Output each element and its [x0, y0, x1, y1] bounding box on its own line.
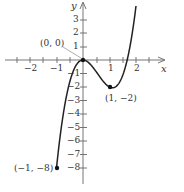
x-tick-label: 1 — [108, 64, 114, 73]
point-start — [55, 166, 59, 170]
y-tick-label: −5 — [67, 123, 80, 132]
x-axis-label: x — [161, 64, 167, 74]
annotation-local-min: (1, −2) — [105, 94, 137, 103]
y-tick-label: −2 — [67, 82, 80, 91]
y-tick-label: −6 — [67, 136, 80, 145]
x-tick-label: 2 — [134, 64, 140, 73]
y-axis-label: y — [71, 1, 77, 11]
annotation-origin: (0, 0) — [40, 39, 64, 48]
x-tick-label: −2 — [24, 64, 37, 73]
x-tick-label: −1 — [50, 64, 63, 73]
y-tick-label: −4 — [67, 109, 80, 118]
point-origin — [81, 58, 85, 62]
y-tick-label: −8 — [67, 163, 80, 172]
point-local-min — [108, 85, 112, 89]
y-ticks — [80, 20, 87, 168]
y-tick-label: 1 — [73, 42, 79, 51]
y-tick-label: −1 — [67, 69, 80, 78]
y-tick-label: 3 — [73, 15, 79, 24]
y-tick-label: −3 — [67, 96, 80, 105]
annotation-start: (−1, −8) — [14, 164, 53, 173]
y-tick-label: −7 — [67, 150, 80, 159]
y-tick-label: 2 — [73, 28, 79, 37]
